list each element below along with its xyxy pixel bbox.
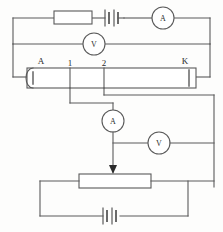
lower-rheostat-box: [79, 174, 151, 188]
label-tap-1: 1: [68, 58, 73, 68]
label-terminal-A: A: [38, 56, 45, 66]
measure-ammeter-label: A: [110, 117, 116, 126]
circuit-diagram: A K 1 2 A V A V: [0, 0, 223, 232]
potentiometer-wire: [27, 68, 196, 88]
measure-voltmeter-label: V: [156, 139, 162, 148]
label-tap-2: 2: [102, 58, 107, 68]
driver-voltmeter-label: V: [91, 40, 97, 49]
circuit-svg: A K 1 2 A V A V: [0, 0, 223, 232]
driver-ammeter-label: A: [160, 14, 166, 23]
rheostat-box: [54, 11, 92, 24]
slider-arrow-icon: [109, 165, 117, 174]
label-terminal-K: K: [182, 56, 189, 66]
wires-group: [13, 7, 214, 224]
